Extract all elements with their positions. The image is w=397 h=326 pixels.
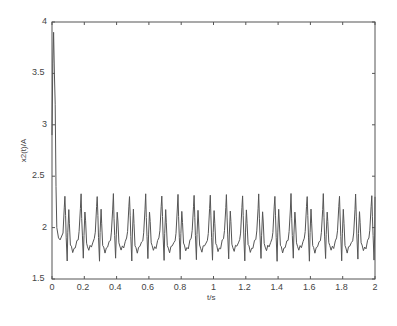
y-tick-label: 3.5 — [32, 67, 45, 77]
x-tick-label: 1 — [211, 282, 216, 292]
line-chart — [0, 0, 397, 326]
x-tick-label: 0.6 — [141, 282, 154, 292]
x-axis-label: t/s — [207, 293, 215, 302]
x-tick-label: 0.2 — [77, 282, 90, 292]
x-tick-label: 1.4 — [271, 282, 284, 292]
x-tick-label: 0.4 — [109, 282, 122, 292]
x-tick-label: 1.6 — [303, 282, 316, 292]
x-tick-label: 1.2 — [238, 282, 251, 292]
x-tick-label: 2 — [373, 282, 378, 292]
axes-box — [52, 22, 375, 279]
y-tick-label: 3 — [42, 119, 47, 129]
y-tick-label: 1.5 — [32, 273, 45, 283]
x-tick-label: 0.8 — [174, 282, 187, 292]
x-tick-label: 0 — [50, 282, 55, 292]
y-tick-label: 2 — [42, 222, 47, 232]
y-axis-label: x2(t)/A — [19, 139, 28, 163]
series-line-x2 — [52, 32, 375, 261]
y-tick-label: 2.5 — [32, 170, 45, 180]
x-tick-label: 1.8 — [335, 282, 348, 292]
y-tick-label: 4 — [42, 16, 47, 26]
